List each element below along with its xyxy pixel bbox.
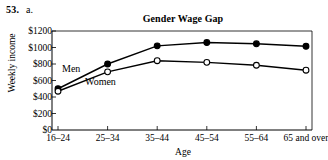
- x-axis-tick-label: 45–54: [195, 133, 219, 143]
- data-point-women-2: [154, 58, 160, 64]
- series-label-women: Women: [85, 76, 116, 87]
- data-point-men-1: [105, 61, 111, 67]
- x-axis-tick-label: 35–44: [145, 133, 169, 143]
- series-label-men: Men: [62, 63, 80, 74]
- x-axis-tick-label: 55–64: [245, 133, 269, 143]
- data-point-women-4: [254, 62, 260, 68]
- x-axis-tick-label: 16–24: [46, 133, 70, 143]
- data-point-men-2: [154, 43, 160, 49]
- data-point-women-3: [204, 59, 210, 65]
- data-point-men-5: [303, 43, 309, 49]
- data-point-women-1: [105, 69, 111, 75]
- data-point-women-0: [55, 88, 61, 94]
- x-axis-title: Age: [58, 147, 308, 157]
- data-point-men-3: [204, 40, 210, 46]
- x-axis-tick-label: 65 and over: [284, 133, 328, 143]
- x-axis-tick-label: 25–34: [96, 133, 120, 143]
- x-axis-tick-labels: 16–2425–3435–4445–5455–6465 and over: [0, 133, 322, 147]
- data-point-men-4: [254, 41, 260, 47]
- data-point-women-5: [303, 67, 309, 73]
